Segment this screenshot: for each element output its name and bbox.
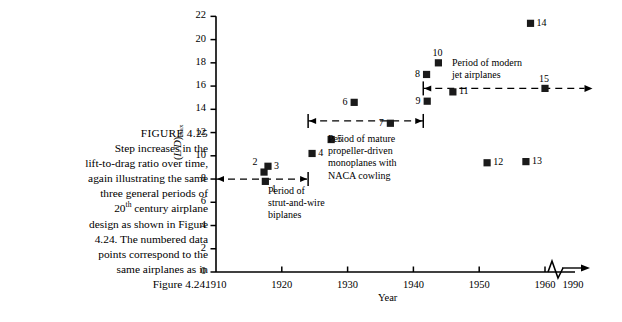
y-tick-label: 4 (184, 219, 206, 230)
data-point-label-8: 8 (415, 68, 420, 79)
y-tick-label: 2 (184, 242, 206, 253)
data-marker-6 (351, 99, 358, 106)
data-marker-10 (435, 59, 442, 66)
data-point-label-2: 2 (252, 156, 257, 167)
data-marker-7 (387, 120, 394, 127)
annotation-line: NACA cowling (328, 170, 397, 182)
annotation-line: strut-and-wire (268, 197, 325, 209)
x-tick-label: 1910 (196, 279, 236, 290)
period-brackets (216, 81, 592, 186)
data-marker-15 (541, 85, 548, 92)
bracket-arrow-left (309, 118, 316, 124)
annotation-line: jet airplanes (452, 69, 522, 81)
annotation-line: Period of mature (328, 133, 397, 145)
data-marker-14 (527, 20, 534, 27)
y-tick-label: 16 (184, 79, 206, 90)
y-tick-label: 0 (184, 265, 206, 276)
annotation-period-propeller: Period of maturepropeller-drivenmonoplan… (328, 133, 397, 182)
y-tick-label: 8 (184, 172, 206, 183)
x-axis-arrowhead (581, 265, 590, 272)
data-marker-9 (424, 98, 431, 105)
x-tick-label-broken: 1990 (553, 279, 593, 290)
data-point-label-13: 13 (532, 155, 542, 166)
y-tick-label: 22 (184, 9, 206, 20)
data-point-label-11: 11 (459, 85, 469, 96)
data-points (260, 20, 548, 185)
bracket-arrow-right (415, 118, 422, 124)
x-tick-label: 1940 (393, 279, 433, 290)
scatter-plot: 0246810121416182022 19101920193019401950… (0, 0, 622, 322)
data-point-label-3: 3 (274, 160, 279, 171)
y-tick-label: 14 (184, 102, 206, 113)
figure-root: FIGURE 4.25 Step increases in the lift-t… (0, 0, 622, 322)
y-tick-label: 20 (184, 33, 206, 44)
data-point-label-6: 6 (343, 96, 348, 107)
annotation-period-biplanes: Period ofstrut-and-wirebiplanes (268, 185, 325, 222)
x-tick-label: 1920 (262, 279, 302, 290)
annotation-line: Period of modern (452, 57, 522, 69)
data-marker-12 (483, 159, 490, 166)
y-axis-title: (L/D)max (172, 125, 183, 160)
data-marker-4 (308, 150, 315, 157)
annotation-line: Period of (268, 185, 325, 197)
data-marker-1 (262, 178, 269, 185)
data-point-label-4: 4 (318, 147, 323, 158)
annotation-period-jet: Period of modernjet airplanes (452, 57, 522, 81)
data-marker-8 (423, 71, 430, 78)
bracket-arrow-right (300, 176, 307, 182)
bracket-arrow-left (424, 85, 431, 91)
data-point-label-7: 7 (379, 117, 384, 128)
axes (211, 16, 591, 278)
data-point-label-12: 12 (493, 156, 503, 167)
y-tick-label: 10 (184, 149, 206, 160)
data-point-label-9: 9 (416, 95, 421, 106)
y-tick-label: 6 (184, 195, 206, 206)
annotation-line: biplanes (268, 209, 325, 221)
y-tick-label: 18 (184, 56, 206, 67)
y-tick-label: 12 (184, 126, 206, 137)
data-point-label-15: 15 (539, 73, 549, 84)
plot-svg (0, 0, 622, 322)
data-point-label-10: 10 (432, 47, 442, 58)
bracket-arrow-right (584, 85, 592, 92)
x-tick-label: 1930 (328, 279, 368, 290)
data-point-label-14: 14 (537, 17, 547, 28)
annotation-line: monoplanes with (328, 157, 397, 169)
data-marker-3 (264, 163, 271, 170)
bracket-arrow-left (217, 176, 224, 182)
x-tick-label: 1950 (459, 279, 499, 290)
x-axis-title: Year (378, 292, 397, 303)
data-marker-13 (522, 158, 529, 165)
data-marker-11 (449, 88, 456, 95)
axis-break-symbol (548, 261, 563, 278)
annotation-line: propeller-driven (328, 145, 397, 157)
